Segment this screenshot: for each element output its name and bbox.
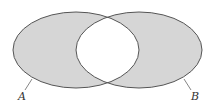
set-b-label: B (190, 90, 199, 103)
set-a-label: A (17, 90, 26, 103)
set-a-leader-line (25, 79, 32, 90)
venn-diagram: A B (0, 0, 205, 104)
set-b-leader-line (184, 79, 191, 90)
